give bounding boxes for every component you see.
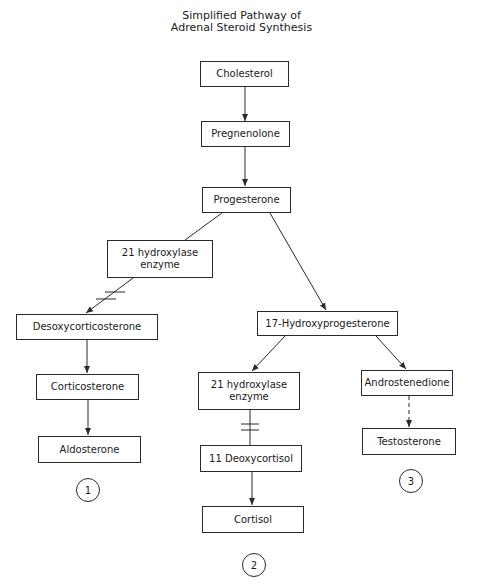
node-label: 17-Hydroxyprogesterone bbox=[265, 318, 389, 330]
node-label: 11 Deoxycortisol bbox=[209, 453, 293, 465]
node-hydroxyprogesterone: 17-Hydroxyprogesterone bbox=[257, 311, 398, 336]
node-desoxycorticosterone: Desoxycorticosterone bbox=[16, 314, 158, 340]
pathway-label-3: 3 bbox=[399, 469, 423, 493]
node-label-line2: enzyme bbox=[140, 259, 180, 271]
pathway-number: 1 bbox=[85, 485, 91, 496]
node-label: Pregnenolone bbox=[211, 128, 280, 140]
node-progesterone: Progesterone bbox=[202, 187, 291, 213]
line-progesterone-enzyme-left bbox=[185, 213, 222, 240]
node-pregnenolone: Pregnenolone bbox=[201, 121, 290, 147]
node-androstenedione: Androstenedione bbox=[361, 370, 453, 396]
arrow-hydroxyprogesterone-enzyme-mid bbox=[252, 336, 285, 371]
node-cholesterol: Cholesterol bbox=[200, 61, 289, 87]
node-label: Desoxycorticosterone bbox=[33, 321, 142, 333]
pathway-number: 3 bbox=[408, 476, 414, 487]
node-label: Aldosterone bbox=[60, 444, 120, 456]
node-label: Cortisol bbox=[234, 514, 272, 526]
pathway-label-1: 1 bbox=[76, 478, 100, 502]
pathway-number: 2 bbox=[251, 560, 257, 571]
node-corticosterone: Corticosterone bbox=[36, 374, 139, 400]
node-cortisol: Cortisol bbox=[202, 506, 304, 533]
node-enzyme-mid: 21 hydroxylase enzyme bbox=[198, 372, 300, 410]
arrow-enzyme-desoxycorticosterone bbox=[86, 278, 133, 313]
arrow-progesterone-hydroxyprogesterone bbox=[270, 213, 326, 310]
node-label-line2: enzyme bbox=[229, 391, 269, 403]
arrow-hydroxyprogesterone-androstenedione bbox=[376, 336, 406, 369]
pathway-label-2: 2 bbox=[242, 553, 266, 577]
node-label-line1: 21 hydroxylase bbox=[122, 247, 198, 259]
node-deoxycortisol: 11 Deoxycortisol bbox=[200, 445, 302, 472]
node-aldosterone: Aldosterone bbox=[38, 436, 141, 463]
node-label: Cholesterol bbox=[216, 68, 272, 80]
node-testosterone: Testosterone bbox=[362, 428, 456, 455]
node-label: Progesterone bbox=[213, 194, 279, 206]
node-enzyme-left: 21 hydroxylase enzyme bbox=[107, 240, 213, 278]
node-label-line1: 21 hydroxylase bbox=[211, 379, 287, 391]
node-label: Testosterone bbox=[377, 436, 441, 448]
node-label: Corticosterone bbox=[51, 381, 124, 393]
connector-layer bbox=[0, 0, 483, 584]
node-label: Androstenedione bbox=[364, 377, 449, 389]
